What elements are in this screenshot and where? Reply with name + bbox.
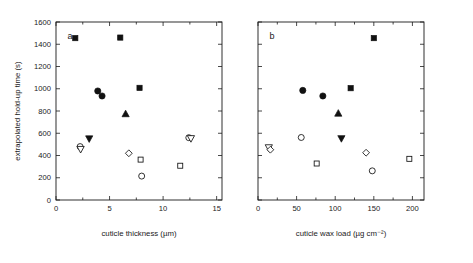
x-tick-label: 5 — [107, 204, 111, 213]
y-tick-label: 1000 — [34, 84, 51, 93]
x-tick-label: 10 — [159, 204, 167, 213]
data-point-filled-square — [73, 36, 78, 41]
data-point-open-square — [178, 163, 183, 168]
plot-frame-b — [258, 22, 424, 200]
x-tick-label: 15 — [212, 204, 220, 213]
data-point-filled-square — [348, 86, 353, 91]
data-point-filled-square — [137, 85, 142, 90]
y-tick-label: 1400 — [34, 40, 51, 49]
data-point-open-circle — [139, 173, 145, 179]
x-tick-label: 150 — [367, 204, 380, 213]
data-point-open-diamond — [363, 149, 370, 156]
data-point-filled-square — [371, 36, 376, 41]
figure-container: 05101502004006008001000120014001600acuti… — [0, 0, 473, 263]
panel-label-b: b — [269, 31, 274, 41]
y-tick-label: 0 — [47, 196, 51, 205]
data-point-open-square — [314, 161, 319, 166]
y-tick-label: 800 — [38, 107, 51, 116]
x-axis-title-b: cuticle wax load (µg cm⁻²) — [296, 229, 387, 238]
data-point-filled-triangle-down — [338, 136, 345, 143]
data-point-filled-triangle-down — [86, 136, 93, 143]
data-point-open-square — [407, 156, 412, 161]
x-axis-title-a: cuticle thickness (µm) — [101, 229, 177, 238]
x-tick-label: 100 — [329, 204, 342, 213]
data-points-a — [73, 35, 195, 179]
x-tick-label: 50 — [292, 204, 300, 213]
data-point-open-square — [138, 157, 143, 162]
data-points-b — [265, 36, 412, 174]
data-point-open-circle — [298, 134, 304, 140]
panel-label-a: a — [67, 31, 72, 41]
y-axis-title: extrapolated hold-up time (s) — [13, 61, 22, 161]
data-point-open-triangle-down — [77, 146, 84, 153]
data-point-open-circle — [369, 168, 375, 174]
y-tick-label: 400 — [38, 151, 51, 160]
data-point-filled-triangle-up — [335, 110, 342, 117]
data-point-open-diamond — [125, 150, 132, 157]
panel-b: 050100150200bcuticle wax load (µg cm⁻²) — [256, 22, 424, 238]
panel-a: 05101502004006008001000120014001600acuti… — [13, 18, 222, 238]
y-tick-label: 1600 — [34, 18, 51, 27]
data-point-filled-square — [118, 35, 123, 40]
y-tick-label: 600 — [38, 129, 51, 138]
data-point-filled-circle — [320, 93, 326, 99]
data-point-filled-circle — [300, 87, 306, 93]
plot-frame-a — [56, 22, 222, 200]
data-point-filled-circle — [95, 88, 101, 94]
y-tick-label: 200 — [38, 173, 51, 182]
x-tick-label: 0 — [54, 204, 58, 213]
data-point-filled-circle — [99, 93, 105, 99]
x-tick-label: 200 — [406, 204, 419, 213]
x-tick-label: 0 — [256, 204, 260, 213]
data-point-filled-triangle-up — [122, 110, 129, 117]
y-tick-label: 1200 — [34, 62, 51, 71]
scatter-figure: 05101502004006008001000120014001600acuti… — [0, 0, 473, 263]
